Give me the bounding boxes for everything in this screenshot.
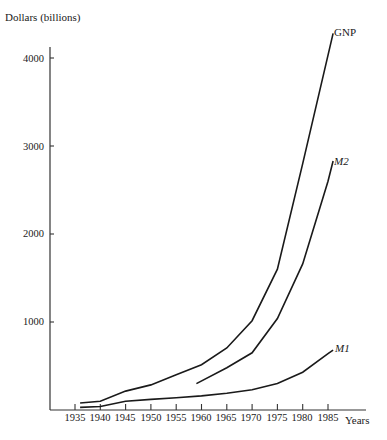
y-tick-label-1000: 1000 — [0, 316, 44, 327]
y-axis-title: Dollars (billions) — [5, 11, 80, 23]
y-tick-label-4000: 4000 — [0, 53, 44, 64]
gnp-series-label: GNP — [334, 26, 356, 38]
gnp-line — [80, 33, 333, 403]
x-ticks — [75, 404, 328, 410]
x-axis-title: Years — [345, 414, 370, 426]
m2-line — [196, 161, 333, 384]
y-tick-label-2000: 2000 — [0, 228, 44, 239]
x-tick-label-1985: 1985 — [313, 412, 343, 423]
y-tick-label-3000: 3000 — [0, 141, 44, 152]
m1-series-label: M1 — [335, 342, 350, 354]
chart-canvas — [0, 0, 387, 440]
m2-series-label: M2 — [334, 155, 349, 167]
